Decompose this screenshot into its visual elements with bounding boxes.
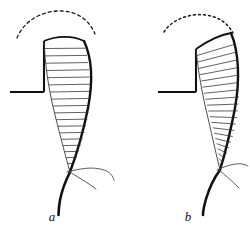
panel-label-b: b [185, 209, 192, 224]
figure-container: a [0, 0, 250, 232]
figure-drawing: a [0, 0, 250, 232]
figure-background [0, 0, 250, 232]
panel-label-a: a [49, 209, 56, 224]
